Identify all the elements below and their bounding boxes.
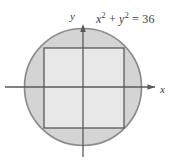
x-axis-label: x (160, 83, 165, 95)
equation-plus: + (109, 12, 116, 26)
equation-constant: 36 (142, 12, 154, 26)
equation-exp-x: 2 (102, 11, 106, 20)
equation-equals: = (132, 12, 139, 26)
equation-exp-y: 2 (125, 11, 129, 20)
figure-container: x2 + y2 = 36 y x (0, 0, 177, 163)
y-axis-label: y (70, 10, 75, 22)
inscribed-square-shape (44, 48, 124, 128)
x-axis-arrowhead (148, 84, 156, 90)
circle-equation-label: x2 + y2 = 36 (96, 12, 155, 27)
